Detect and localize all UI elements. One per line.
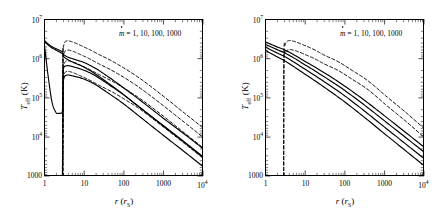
- xtick-right-1: 10: [295, 179, 316, 188]
- ytick-left-0: 107: [16, 14, 42, 25]
- curves-right: [265, 41, 424, 176]
- annotation-left: m = 1, 10, 100, 1000: [119, 29, 181, 38]
- curves-left: [44, 40, 203, 176]
- xtick-left-2: 100: [113, 179, 134, 188]
- xtick-right-2: 100: [334, 179, 355, 188]
- plot-area-left: [0, 0, 220, 216]
- panel-left: 107 106 105 104 1000 1 10 100 1000 104 T…: [0, 0, 220, 216]
- xtick-right-3: 1000: [374, 179, 395, 188]
- figure-container: 107 106 105 104 1000 1 10 100 1000 104 T…: [0, 0, 440, 216]
- ytick-right-1: 106: [237, 53, 263, 64]
- ytick-left-1: 106: [16, 53, 42, 64]
- panel-right: 107 106 105 104 1000 1 10 100 1000 104 T…: [220, 0, 440, 216]
- ytick-left-3: 104: [16, 131, 42, 142]
- xtick-left-4: 104: [192, 179, 213, 190]
- x-axis-label-right: r (rS): [305, 196, 385, 208]
- xtick-left-1: 10: [74, 179, 95, 188]
- plot-area-right: [220, 0, 440, 216]
- xtick-left-0: 1: [34, 179, 55, 188]
- y-axis-label-right: Teff (K): [240, 66, 252, 126]
- xtick-left-3: 1000: [153, 179, 174, 188]
- xtick-right-0: 1: [255, 179, 276, 188]
- axis-ticks-left: [44, 19, 203, 176]
- ytick-right-3: 104: [237, 131, 263, 142]
- xtick-right-4: 104: [413, 179, 434, 190]
- annotation-right: m = 1, 10, 100, 1000: [340, 29, 402, 38]
- axis-ticks-right: [265, 19, 424, 176]
- ytick-right-0: 107: [237, 14, 263, 25]
- x-axis-label-left: r (rS): [84, 196, 164, 208]
- y-axis-label-left: Teff (K): [19, 66, 31, 126]
